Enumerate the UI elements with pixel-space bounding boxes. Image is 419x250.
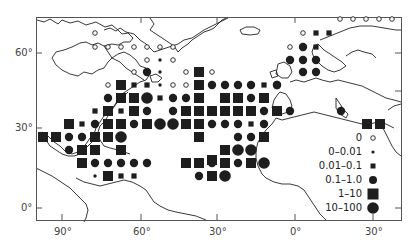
coast-europe-west <box>290 78 401 102</box>
marker-1-10 <box>38 132 48 142</box>
marker-0.1-1 <box>247 94 255 102</box>
marker-0.1-1 <box>143 68 151 76</box>
marker-1-10 <box>259 132 269 142</box>
marker-1-10 <box>129 93 139 103</box>
coast-uk <box>276 62 292 78</box>
marker-1-10 <box>207 155 217 165</box>
marker-zero <box>93 45 98 50</box>
marker-1-10 <box>246 106 256 116</box>
marker-0-0.01 <box>93 174 96 177</box>
coast-baltic <box>346 50 376 58</box>
marker-0.1-1 <box>91 159 99 167</box>
marker-0.1-1 <box>299 43 307 51</box>
marker-0.1-1 <box>195 172 203 180</box>
marker-10-100 <box>167 118 179 130</box>
marker-zero <box>184 83 189 88</box>
marker-0.01-0.1 <box>131 173 136 178</box>
marker-10-100 <box>232 144 244 156</box>
marker-1-10 <box>116 119 126 129</box>
marker-0.1-1 <box>273 81 281 89</box>
legend-label-0.1-1: 0.1–1.0 <box>292 175 362 185</box>
marker-1-10 <box>181 106 191 116</box>
marker-1-10 <box>220 145 230 155</box>
marker-0.01-0.1 <box>313 44 318 49</box>
marker-0.1-1 <box>299 68 307 76</box>
marker-0.01-0.1 <box>248 121 253 126</box>
marker-0.1-1 <box>208 120 216 128</box>
lat-label-30: 30° <box>15 123 33 133</box>
marker-0.01-0.1 <box>118 173 123 178</box>
marker-0.1-1 <box>234 81 242 89</box>
marker-1-10 <box>246 158 256 168</box>
marker-1-10 <box>90 132 100 142</box>
marker-0-0.01 <box>158 83 161 86</box>
marker-0.1-1 <box>286 56 294 64</box>
marker-zero <box>171 83 176 88</box>
marker-zero <box>132 70 137 75</box>
marker-1-10 <box>103 106 113 116</box>
marker-1-10 <box>207 171 217 181</box>
marker-0.1-1 <box>312 56 320 64</box>
marker-0.1-1 <box>78 133 86 141</box>
legend-label-1-10: 1–10 <box>292 189 362 199</box>
marker-1-10 <box>116 145 126 155</box>
marker-10-100 <box>141 92 153 104</box>
marker-0.1-1 <box>65 133 73 141</box>
marker-1-10 <box>194 132 204 142</box>
marker-zero <box>184 70 189 75</box>
marker-1-10 <box>220 106 230 116</box>
lat-label-60: 60° <box>15 48 33 58</box>
marker-zero <box>93 31 98 36</box>
legend-symbol-0.01-0.1 <box>371 164 376 169</box>
coast-central-america <box>36 168 88 222</box>
legend-symbols <box>367 136 379 214</box>
marker-1-10 <box>233 93 243 103</box>
marker-0.01-0.1 <box>157 95 162 100</box>
marker-1-10 <box>194 106 204 116</box>
marker-zero <box>288 45 293 50</box>
marker-0.1-1 <box>234 120 242 128</box>
marker-0.01-0.1 <box>79 121 84 126</box>
marker-1-10 <box>77 158 87 168</box>
marker-0.1-1 <box>337 107 345 115</box>
marker-0.1-1 <box>234 159 242 167</box>
marker-1-10 <box>375 119 385 129</box>
marker-0.1-1 <box>143 159 151 167</box>
marker-0-0.01 <box>158 58 161 61</box>
marker-zero <box>119 45 124 50</box>
legend-label-0.01-0.1: 0.01–0.1 <box>292 161 362 171</box>
marker-1-10 <box>103 119 113 129</box>
marker-zero <box>390 17 395 22</box>
marker-1-10 <box>142 119 152 129</box>
marker-1-10 <box>103 171 113 181</box>
marker-0.1-1 <box>169 94 177 102</box>
lon-label-30e: 30° <box>365 227 383 237</box>
marker-10-100 <box>245 144 257 156</box>
marker-1-10 <box>77 145 87 155</box>
marker-1-10 <box>207 106 217 116</box>
marker-zero <box>210 70 215 75</box>
marker-zero <box>338 17 343 22</box>
marker-0.1-1 <box>117 159 125 167</box>
marker-zero <box>106 45 111 50</box>
marker-0.1-1 <box>169 107 177 115</box>
legend-symbol-zero <box>371 136 376 141</box>
marker-0.01-0.1 <box>261 82 266 87</box>
marker-1-10 <box>181 158 191 168</box>
marker-zero <box>158 45 163 50</box>
marker-0.01-0.1 <box>144 82 149 87</box>
lat-label-0: 0° <box>21 203 32 213</box>
marker-0.01-0.1 <box>118 108 123 113</box>
marker-0.1-1 <box>104 94 112 102</box>
legend-symbol-1-10 <box>368 189 379 200</box>
marker-0.1-1 <box>312 68 320 76</box>
marker-zero <box>377 17 382 22</box>
marker-1-10 <box>116 80 126 90</box>
marker-zero <box>145 58 150 63</box>
marker-1-10 <box>103 132 113 142</box>
marker-10-100 <box>115 131 127 143</box>
marker-10-100 <box>258 157 270 169</box>
marker-0.1-1 <box>130 120 138 128</box>
marker-10-100 <box>219 170 231 182</box>
marker-zero <box>351 17 356 22</box>
